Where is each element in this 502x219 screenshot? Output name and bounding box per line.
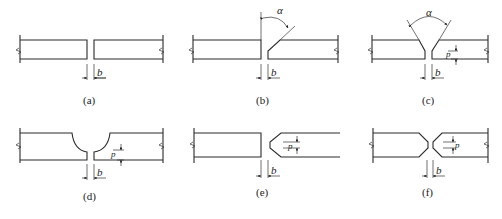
panel-label-c: (c): [422, 94, 435, 107]
gap-symbol-b: b: [436, 164, 442, 176]
panel-d: p b (d): [16, 128, 164, 203]
panel-a: b (a): [16, 35, 164, 107]
gap-symbol-b: b: [97, 166, 103, 178]
angle-symbol-alpha: α: [426, 6, 432, 18]
panel-label-a: (a): [83, 94, 96, 107]
panel-label-b: (b): [256, 94, 269, 107]
panel-b: α b (b): [189, 4, 339, 107]
root-face-symbol-p: p: [454, 140, 460, 150]
gap-symbol-b: b: [271, 66, 277, 78]
root-face-symbol-p: p: [287, 141, 293, 151]
panel-label-d: (d): [83, 190, 96, 203]
root-face-symbol-p: p: [110, 149, 116, 159]
panel-c: α p b (c): [368, 6, 489, 107]
panel-f: p b (f): [369, 128, 489, 199]
angle-symbol-alpha: α: [277, 4, 283, 16]
panel-label-f: (f): [422, 186, 433, 199]
weld-groove-figure: b (a) α b (b) α p b (c): [0, 0, 502, 219]
diagram-canvas: b (a) α b (b) α p b (c): [0, 0, 502, 219]
panel-label-e: (e): [256, 186, 269, 199]
panel-e: p b (e): [190, 128, 340, 199]
gap-symbol-b: b: [97, 66, 103, 78]
gap-symbol-b: b: [435, 66, 441, 78]
root-face-symbol-p: p: [445, 49, 451, 59]
gap-symbol-b: b: [271, 164, 277, 176]
